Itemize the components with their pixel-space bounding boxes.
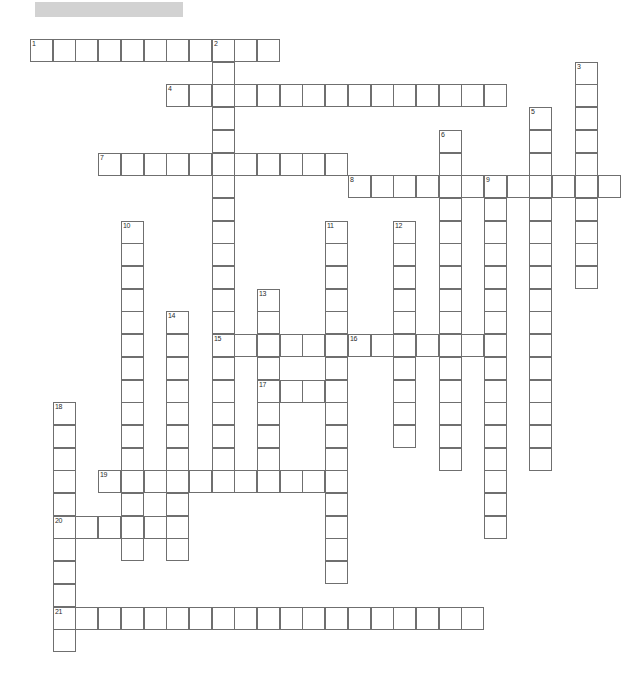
crossword-cell[interactable] <box>166 334 189 357</box>
crossword-cell[interactable]: 9 <box>484 175 507 198</box>
crossword-cell[interactable]: 16 <box>348 334 371 357</box>
crossword-cell[interactable] <box>575 266 598 289</box>
crossword-cell[interactable] <box>484 402 507 425</box>
crossword-cell[interactable] <box>325 607 348 630</box>
crossword-cell[interactable] <box>53 629 76 652</box>
crossword-cell[interactable] <box>75 39 98 62</box>
crossword-cell[interactable] <box>484 289 507 312</box>
crossword-cell[interactable] <box>257 334 280 357</box>
crossword-cell[interactable] <box>598 175 621 198</box>
crossword-cell[interactable] <box>529 266 552 289</box>
crossword-cell[interactable] <box>484 243 507 266</box>
crossword-cell[interactable] <box>144 607 167 630</box>
crossword-cell[interactable] <box>234 607 257 630</box>
crossword-cell[interactable] <box>280 470 303 493</box>
crossword-cell[interactable] <box>166 380 189 403</box>
crossword-cell[interactable] <box>393 243 416 266</box>
crossword-cell[interactable]: 7 <box>98 153 121 176</box>
crossword-cell[interactable] <box>280 607 303 630</box>
crossword-cell[interactable] <box>166 607 189 630</box>
crossword-cell[interactable]: 5 <box>529 107 552 130</box>
crossword-cell[interactable] <box>484 493 507 516</box>
crossword-cell[interactable] <box>189 607 212 630</box>
crossword-cell[interactable] <box>212 62 235 85</box>
crossword-cell[interactable] <box>234 470 257 493</box>
crossword-cell[interactable] <box>166 448 189 471</box>
crossword-cell[interactable] <box>439 198 462 221</box>
crossword-cell[interactable] <box>416 175 439 198</box>
crossword-cell[interactable]: 4 <box>166 84 189 107</box>
crossword-cell[interactable] <box>325 289 348 312</box>
crossword-cell[interactable] <box>257 39 280 62</box>
crossword-cell[interactable] <box>53 448 76 471</box>
crossword-cell[interactable] <box>144 470 167 493</box>
crossword-cell[interactable] <box>212 470 235 493</box>
crossword-cell[interactable] <box>393 311 416 334</box>
crossword-cell[interactable] <box>393 266 416 289</box>
crossword-cell[interactable] <box>461 607 484 630</box>
crossword-cell[interactable] <box>575 198 598 221</box>
crossword-cell[interactable] <box>575 175 598 198</box>
crossword-cell[interactable] <box>325 425 348 448</box>
crossword-cell[interactable] <box>98 39 121 62</box>
crossword-cell[interactable] <box>393 425 416 448</box>
crossword-cell[interactable] <box>166 538 189 561</box>
crossword-cell[interactable] <box>212 425 235 448</box>
crossword-cell[interactable] <box>575 243 598 266</box>
crossword-cell[interactable] <box>529 153 552 176</box>
crossword-cell[interactable] <box>212 175 235 198</box>
crossword-cell[interactable] <box>166 39 189 62</box>
crossword-cell[interactable] <box>439 243 462 266</box>
crossword-cell[interactable] <box>484 357 507 380</box>
crossword-cell[interactable] <box>575 84 598 107</box>
crossword-cell[interactable] <box>212 380 235 403</box>
crossword-cell[interactable] <box>484 334 507 357</box>
crossword-cell[interactable] <box>325 538 348 561</box>
crossword-cell[interactable] <box>212 357 235 380</box>
crossword-cell[interactable] <box>393 84 416 107</box>
crossword-cell[interactable] <box>166 402 189 425</box>
crossword-cell[interactable] <box>325 84 348 107</box>
crossword-grid[interactable]: 123456789101112131415161718192021 <box>0 0 627 696</box>
crossword-cell[interactable] <box>325 561 348 584</box>
crossword-cell[interactable] <box>257 607 280 630</box>
crossword-cell[interactable] <box>234 153 257 176</box>
crossword-cell[interactable] <box>257 153 280 176</box>
crossword-cell[interactable] <box>575 221 598 244</box>
crossword-cell[interactable] <box>393 607 416 630</box>
crossword-cell[interactable]: 2 <box>212 39 235 62</box>
crossword-cell[interactable] <box>166 425 189 448</box>
crossword-cell[interactable] <box>325 380 348 403</box>
crossword-cell[interactable] <box>189 470 212 493</box>
crossword-cell[interactable] <box>416 84 439 107</box>
crossword-cell[interactable] <box>280 153 303 176</box>
crossword-cell[interactable] <box>439 448 462 471</box>
crossword-cell[interactable]: 18 <box>53 402 76 425</box>
crossword-cell[interactable] <box>393 334 416 357</box>
crossword-cell[interactable] <box>144 39 167 62</box>
crossword-cell[interactable] <box>484 198 507 221</box>
crossword-cell[interactable] <box>302 380 325 403</box>
crossword-cell[interactable] <box>212 266 235 289</box>
crossword-cell[interactable] <box>484 425 507 448</box>
crossword-cell[interactable] <box>189 39 212 62</box>
crossword-cell[interactable] <box>439 311 462 334</box>
crossword-cell[interactable] <box>121 470 144 493</box>
crossword-cell[interactable] <box>439 153 462 176</box>
crossword-cell[interactable] <box>257 425 280 448</box>
crossword-cell[interactable] <box>461 84 484 107</box>
crossword-cell[interactable] <box>393 380 416 403</box>
crossword-cell[interactable] <box>325 153 348 176</box>
crossword-cell[interactable] <box>166 470 189 493</box>
crossword-cell[interactable] <box>484 380 507 403</box>
crossword-cell[interactable] <box>121 607 144 630</box>
crossword-cell[interactable] <box>98 516 121 539</box>
crossword-cell[interactable] <box>302 607 325 630</box>
crossword-cell[interactable] <box>529 130 552 153</box>
crossword-cell[interactable] <box>144 516 167 539</box>
crossword-cell[interactable] <box>325 516 348 539</box>
crossword-cell[interactable] <box>53 584 76 607</box>
crossword-cell[interactable] <box>234 39 257 62</box>
crossword-cell[interactable] <box>189 153 212 176</box>
crossword-cell[interactable] <box>529 334 552 357</box>
